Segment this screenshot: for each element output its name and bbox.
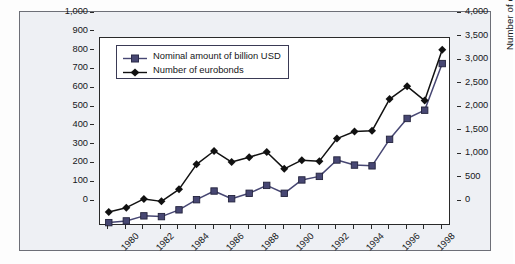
y-axis-left-tick-label: 0	[83, 195, 88, 204]
y-axis-right-tick-label: 0	[465, 195, 470, 204]
chart-frame: Nominal value in billion USD 01002003004…	[19, 11, 491, 251]
x-axis-tick-label: 1996	[400, 231, 422, 253]
y-axis-left-tick-label: 200	[72, 157, 88, 166]
legend-label: Number of eurobonds	[153, 64, 244, 75]
x-axis-tick-mark	[107, 225, 108, 229]
data-point	[281, 190, 287, 196]
x-axis-tick-mark	[283, 225, 284, 229]
data-point	[298, 156, 306, 164]
y-axis-right-tick-mark	[457, 35, 461, 36]
y-axis-left-tick-mark	[90, 30, 94, 31]
y-axis-right-tick-mark	[457, 12, 461, 13]
y-axis-left-tick-mark	[90, 49, 94, 50]
x-axis-tick-label: 1986	[224, 231, 246, 253]
y-axis-left-tick-mark	[90, 124, 94, 125]
x-axis-tick-label: 1998	[435, 231, 457, 253]
data-point	[264, 182, 270, 188]
x-axis-tick-label: 1988	[259, 231, 281, 253]
data-point	[245, 153, 253, 161]
x-axis-tick-label: 1980	[119, 231, 141, 253]
y-axis-right-tick-mark	[457, 153, 461, 154]
x-axis-tick-mark	[406, 225, 407, 229]
y-axis-right-tick-label: 1,000	[465, 148, 488, 157]
chart-legend: Nominal amount of billion USD Number of …	[116, 45, 289, 79]
data-point	[299, 177, 305, 183]
y-axis-right-tick-label: 500	[465, 172, 481, 181]
x-axis-tick-label: 1984	[189, 231, 211, 253]
x-axis-tick-mark	[248, 225, 249, 229]
y-axis-right-tick-label: 4,000	[465, 7, 488, 16]
x-axis-tick-label: 1994	[365, 231, 387, 253]
diamond-marker-icon	[122, 64, 148, 75]
x-axis-tick-mark	[388, 225, 389, 229]
y-axis-left-title: Nominal value in billion USD	[0, 0, 1, 40]
y-axis-right-tick-mark	[457, 82, 461, 83]
data-point	[351, 162, 357, 168]
legend-item-number-of-eurobonds: Number of eurobonds	[122, 63, 281, 75]
x-axis-tick-label: 1992	[329, 231, 351, 253]
data-point	[350, 127, 358, 135]
y-axis-left-tick-label: 600	[72, 82, 88, 91]
y-axis-left-tick-label: 300	[72, 139, 88, 148]
data-point	[158, 213, 164, 219]
data-point	[368, 127, 376, 135]
data-point	[141, 213, 147, 219]
data-point	[439, 60, 445, 66]
x-axis-tick-mark	[195, 225, 196, 229]
x-axis-tick-mark	[300, 225, 301, 229]
y-axis-left-tick-label: 700	[72, 63, 88, 72]
y-axis-left-tick-mark	[90, 106, 94, 107]
data-point	[123, 218, 129, 224]
x-axis-tick-mark	[142, 225, 143, 229]
y-axis-right-tick-mark	[457, 176, 461, 177]
x-axis-tick-label: 1982	[154, 231, 176, 253]
legend-item-nominal-amount: Nominal amount of billion USD	[122, 49, 281, 61]
data-point	[193, 196, 199, 202]
data-point	[176, 207, 182, 213]
data-point	[122, 204, 130, 212]
y-axis-right-tick-mark	[457, 129, 461, 130]
x-axis-tick-mark	[265, 225, 266, 229]
x-axis-tick-label: 1990	[294, 231, 316, 253]
data-point	[438, 46, 446, 54]
y-axis-left-tick-label: 900	[72, 26, 88, 35]
data-point	[404, 115, 410, 121]
data-point	[316, 173, 322, 179]
y-axis-right-tick-mark	[457, 200, 461, 201]
x-axis-tick-mark	[423, 225, 424, 229]
y-axis-left-tick-label: 500	[72, 101, 88, 110]
y-axis-right-tick-label: 2,500	[465, 78, 488, 87]
x-axis-tick-mark	[125, 225, 126, 229]
y-axis-right-tick-label: 1,500	[465, 125, 488, 134]
x-axis-tick-mark	[441, 225, 442, 229]
y-axis-left-tick-mark	[90, 87, 94, 88]
data-point	[421, 107, 427, 113]
data-point	[334, 157, 340, 163]
legend-label: Nominal amount of billion USD	[153, 50, 281, 61]
y-axis-left-tick-mark	[90, 162, 94, 163]
y-axis-right-tick-label: 2,000	[465, 101, 488, 110]
y-axis-left-ticks: 01002003004005006007008009001,000	[60, 12, 94, 200]
x-axis-tick-mark	[177, 225, 178, 229]
x-axis-tick-mark	[318, 225, 319, 229]
y-axis-left-tick-mark	[90, 12, 94, 13]
data-point	[386, 136, 392, 142]
series-line-1	[109, 64, 442, 223]
data-point	[211, 188, 217, 194]
y-axis-right-tick-label: 3,000	[465, 54, 488, 63]
x-axis-tick-mark	[213, 225, 214, 229]
square-marker-icon	[122, 50, 148, 61]
y-axis-left-tick-label: 100	[72, 176, 88, 185]
y-axis-left-tick-mark	[90, 181, 94, 182]
data-point	[246, 190, 252, 196]
x-axis-tick-mark	[335, 225, 336, 229]
x-axis-tick-mark	[160, 225, 161, 229]
data-point	[369, 163, 375, 169]
data-point	[228, 196, 234, 202]
y-axis-left-tick-label: 1,000	[65, 7, 88, 16]
data-point	[105, 208, 113, 216]
data-point	[228, 158, 236, 166]
y-axis-left-tick-mark	[90, 200, 94, 201]
x-axis-tick-mark	[230, 225, 231, 229]
